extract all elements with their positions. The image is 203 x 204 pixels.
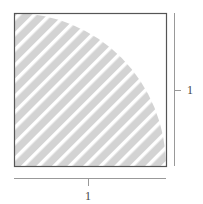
quarter-circle-region xyxy=(14,13,166,166)
vertical-dimension-label: 1 xyxy=(187,84,193,96)
horizontal-dimension-line xyxy=(14,179,166,187)
horizontal-dimension-label: 1 xyxy=(85,190,91,202)
vertical-dimension-line xyxy=(175,13,182,166)
diagram-canvas xyxy=(0,0,203,204)
